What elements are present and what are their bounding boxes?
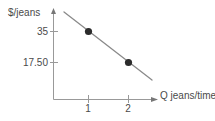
demand-curve-line	[64, 12, 152, 80]
y-tick-label: 35	[4, 26, 48, 37]
data-point-marker	[85, 28, 92, 35]
x-axis	[54, 97, 159, 102]
y-axis	[51, 8, 56, 100]
y-tick-label: 17.50	[4, 57, 48, 68]
y-axis-title: $/jeans	[8, 7, 40, 18]
x-axis-arrowhead	[151, 97, 158, 102]
y-axis-arrowhead	[51, 8, 56, 14]
x-axis-title: Q jeans/time	[160, 90, 215, 101]
demand-curve-chart: $/jeans Q jeans/time 35 17.50 1 2	[0, 0, 215, 121]
data-point-marker	[125, 59, 132, 66]
x-tick-label: 1	[78, 103, 98, 114]
x-tick-label: 2	[118, 103, 138, 114]
